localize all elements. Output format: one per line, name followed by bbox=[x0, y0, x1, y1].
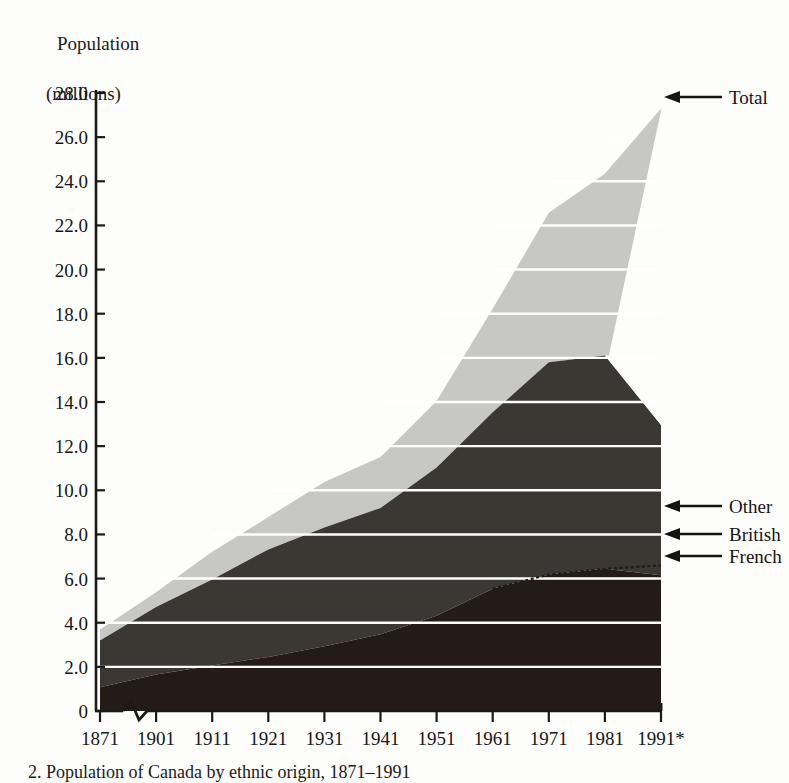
stacked-area-bands bbox=[100, 108, 661, 711]
y-axis-tick-label: 4.0 bbox=[64, 613, 88, 634]
annotation-french: French bbox=[664, 546, 782, 567]
y-axis-tick-label: 0 bbox=[79, 701, 89, 722]
x-axis-tick-label: 1951 bbox=[418, 728, 456, 749]
x-axis-tick-label: 1941 bbox=[362, 728, 400, 749]
x-axis-tick-label: 1981 bbox=[586, 728, 624, 749]
annotation-french-label: French bbox=[729, 546, 782, 567]
x-axis-tick-label: 1971 bbox=[530, 728, 568, 749]
x-axis-tick-label: 1931 bbox=[305, 728, 343, 749]
y-axis-tick-label: 18.0 bbox=[55, 304, 88, 325]
x-axis-tick-label: 1871 bbox=[81, 728, 119, 749]
left-arrow-icon bbox=[664, 528, 722, 540]
x-axis-tick-label: 1911 bbox=[194, 728, 231, 749]
annotation-british: British bbox=[664, 524, 781, 545]
y-axis-tick-label: 26.0 bbox=[55, 127, 88, 148]
y-axis-tick-label: 28.0 bbox=[55, 83, 88, 104]
x-axis-tick-label: 1961 bbox=[474, 728, 512, 749]
y-axis-tick-label: 20.0 bbox=[55, 260, 88, 281]
left-arrow-icon bbox=[664, 500, 722, 512]
x-axis-tick-label: 1901 bbox=[137, 728, 175, 749]
y-axis-tick-label: 24.0 bbox=[55, 171, 88, 192]
x-axis-tick-label: 1921 bbox=[249, 728, 287, 749]
y-axis-tick-label: 2.0 bbox=[64, 657, 88, 678]
x-axis-tick-labels: 1871190119111921193119411951196119711981… bbox=[81, 728, 685, 749]
y-axis-tick-label: 6.0 bbox=[64, 569, 88, 590]
annotation-total: Total bbox=[664, 87, 768, 108]
y-axis-tick-label: 16.0 bbox=[55, 348, 88, 369]
annotation-british-label: British bbox=[729, 524, 781, 545]
y-axis-ticks bbox=[96, 93, 105, 711]
annotation-other: Other bbox=[664, 496, 773, 517]
y-axis-tick-label: 12.0 bbox=[55, 436, 88, 457]
x-axis-ticks bbox=[100, 711, 661, 722]
y-axis-tick-label: 8.0 bbox=[64, 524, 88, 545]
left-arrow-icon bbox=[664, 550, 722, 562]
annotation-other-label: Other bbox=[729, 496, 773, 517]
y-axis-tick-label: 10.0 bbox=[55, 480, 88, 501]
y-axis-tick-label: 14.0 bbox=[55, 392, 88, 413]
left-arrow-icon bbox=[664, 91, 722, 103]
y-axis-tick-labels: 02.04.06.08.010.012.014.016.018.020.022.… bbox=[55, 83, 88, 722]
annotation-total-label: Total bbox=[729, 87, 768, 108]
y-axis-tick-label: 22.0 bbox=[55, 215, 88, 236]
figure-caption: 2. Population of Canada by ethnic origin… bbox=[28, 762, 410, 783]
x-axis-tick-label: 1991* bbox=[637, 728, 685, 749]
